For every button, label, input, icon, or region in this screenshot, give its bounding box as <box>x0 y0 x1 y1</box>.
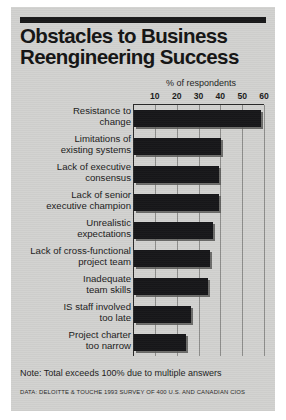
x-tick-label-20: 20 <box>167 91 187 101</box>
x-tick-label-40: 40 <box>210 91 230 101</box>
category-label-4: Unrealisticexpectations <box>15 218 131 239</box>
x-tick-label-30: 30 <box>189 91 209 101</box>
chart-figure: Obstacles to Business Reengineering Succ… <box>11 7 275 411</box>
plot-area-wrapper: 102030405060 <box>133 91 264 361</box>
bar-4 <box>134 222 213 239</box>
top-decorative-rule <box>20 17 266 23</box>
category-label-1: Limitations ofexisting systems <box>15 134 131 155</box>
bar-3 <box>134 194 219 211</box>
category-label-7: IS staff involvedtoo late <box>15 302 131 323</box>
category-label-6: Inadequateteam skills <box>15 274 131 295</box>
chart-title-line-2: Reengineering Success <box>20 46 270 67</box>
gridline-60 <box>264 105 265 356</box>
x-tick-label-50: 50 <box>232 91 252 101</box>
bar-series <box>134 105 264 356</box>
category-label-2: Lack of executiveconsensus <box>15 162 131 183</box>
chart-note: Note: Total exceeds 100% due to multiple… <box>20 368 221 378</box>
bar-6 <box>134 278 208 295</box>
bar-8 <box>134 334 186 351</box>
category-label-8: Project chartertoo narrow <box>15 330 131 351</box>
chart-source: DATA: DELOITTE & TOUCHE 1993 SURVEY OF 4… <box>20 389 245 395</box>
bar-7 <box>134 306 191 323</box>
category-label-0: Resistance tochange <box>15 106 131 127</box>
bar-5 <box>134 250 210 267</box>
bar-1 <box>134 138 221 155</box>
bar-0 <box>134 110 261 127</box>
category-label-3: Lack of seniorexecutive champion <box>15 190 131 211</box>
category-labels: Resistance tochangeLimitations ofexistin… <box>15 104 131 356</box>
chart-title-line-1: Obstacles to Business <box>20 25 270 46</box>
plot-area <box>133 104 264 356</box>
x-tick-label-60: 60 <box>254 91 274 101</box>
category-label-5: Lack of cross-functionalproject team <box>15 246 131 267</box>
chart-title: Obstacles to Business Reengineering Succ… <box>20 25 270 67</box>
bar-2 <box>134 166 219 183</box>
x-axis-label: % of respondents <box>131 78 271 88</box>
x-axis-tick-labels: 102030405060 <box>133 91 264 104</box>
x-tick-label-10: 10 <box>145 91 165 101</box>
